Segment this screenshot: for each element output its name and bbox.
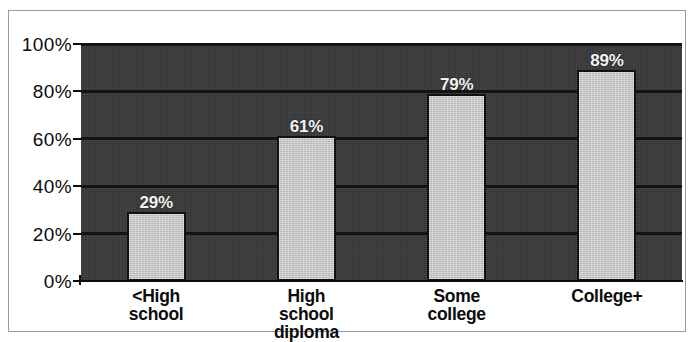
x-axis-label-line: College+ [571, 287, 642, 305]
gridline [81, 43, 682, 46]
x-axis-label-line: High [274, 287, 339, 305]
x-axis-label-line: diploma [274, 323, 339, 341]
x-axis-label-line: school [274, 305, 339, 323]
x-axis-label-line: school [129, 305, 184, 323]
bar-value-label: 29% [139, 194, 172, 211]
bar-value-label: 61% [290, 118, 323, 135]
bar: 79% [427, 94, 486, 281]
x-axis-label-line: <High [129, 287, 184, 305]
bar-value-label: 79% [440, 76, 473, 93]
chart-frame: 0%20%40%60%80%100%29%61%79%89% <Highscho… [8, 10, 686, 332]
plot-area: 0%20%40%60%80%100%29%61%79%89% [81, 44, 682, 281]
y-axis-tick-mark [73, 43, 81, 45]
x-axis-label-line: Some [428, 287, 486, 305]
x-axis-category-label: Highschooldiploma [274, 287, 339, 342]
x-axis-label-line: college [428, 305, 486, 323]
y-axis-tick-mark [73, 90, 81, 92]
y-axis-tick-mark [73, 138, 81, 140]
bar-chart-figure: 0%20%40%60%80%100%29%61%79%89% <Highscho… [0, 0, 693, 342]
bar: 61% [277, 136, 336, 281]
x-axis-category-label: College+ [571, 287, 642, 305]
bar: 89% [577, 70, 636, 281]
bar: 29% [127, 212, 186, 281]
x-axis-category-label: <Highschool [129, 287, 184, 323]
x-axis-baseline [73, 280, 683, 282]
x-axis-origin-tick [79, 275, 81, 285]
y-axis-tick-mark [73, 185, 81, 187]
x-axis-category-label: Somecollege [428, 287, 486, 323]
bar-value-label: 89% [590, 52, 623, 69]
y-axis-tick-mark [73, 233, 81, 235]
